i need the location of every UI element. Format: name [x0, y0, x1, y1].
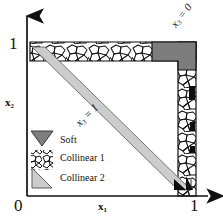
legend-label-collinear-1: Collinear 1: [60, 152, 105, 163]
y-axis-label: x2: [5, 96, 14, 109]
legend-swatch-collinear-2: [32, 168, 52, 188]
legend-label-collinear-2: Collinear 2: [60, 172, 105, 183]
legend-label-soft: Soft: [60, 134, 77, 145]
x-axis-tick-1: 1: [190, 196, 199, 216]
x-axis-label-sub: 1: [104, 206, 107, 213]
x-axis-label: x1: [98, 200, 107, 213]
figure-canvas: 1 0 1 x1 x2 x3 = 0 x3 = 1 Soft Collinear…: [0, 0, 223, 224]
origin-label: 0: [14, 196, 23, 216]
region-collinear-2-diagonal: [32, 47, 191, 190]
region-soft-corner: [152, 42, 196, 70]
legend-swatch-collinear-1: [31, 150, 53, 170]
legend-swatch-soft: [31, 131, 53, 146]
phase-diagram-svg: [0, 0, 223, 224]
y-axis-label-sub: 2: [11, 102, 14, 109]
y-axis-tick-1: 1: [9, 34, 18, 54]
